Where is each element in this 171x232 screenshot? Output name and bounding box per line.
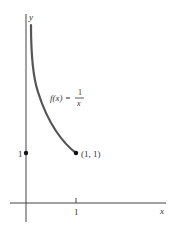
function-label-denominator: x (76, 99, 81, 108)
graph-canvas: y x 1 1 (1, 1) f(x) = 1 x (0, 0, 171, 232)
function-label-numerator: 1 (78, 88, 82, 97)
point-1-1 (74, 151, 78, 155)
function-label-lhs: f(x) = (50, 93, 71, 103)
function-curve (31, 25, 76, 153)
y-axis-label: y (28, 12, 33, 22)
point-label-1-1: (1, 1) (81, 149, 101, 159)
x-tick-label-1: 1 (74, 207, 79, 217)
y-tick-label-1: 1 (18, 149, 23, 159)
x-axis-label: x (159, 206, 164, 216)
point-0-1 (24, 151, 28, 155)
